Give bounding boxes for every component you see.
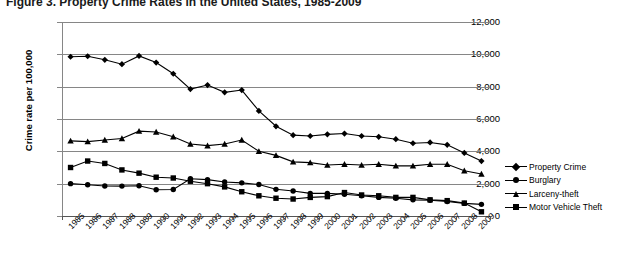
data-point-square-icon	[342, 190, 347, 195]
chart-plot-area: Crime rate per 100,000 02,0004,0006,0008…	[0, 0, 500, 257]
data-point-diamond-icon	[102, 57, 108, 63]
series-lines	[62, 22, 490, 216]
figure-container: Figure 3. Property Crime Rates in the Un…	[0, 0, 622, 257]
data-point-round-icon	[68, 181, 73, 186]
data-point-round-icon	[273, 187, 278, 192]
legend: Property CrimeBurglaryLarceny-theftMotor…	[505, 160, 622, 214]
data-point-round-icon	[85, 182, 90, 187]
data-point-diamond-icon	[290, 132, 296, 138]
data-point-diamond-icon	[153, 59, 159, 65]
data-point-square-icon	[359, 192, 364, 197]
x-tick-mark	[387, 216, 388, 220]
x-tick-mark	[456, 216, 457, 220]
data-point-diamond-icon	[427, 139, 433, 145]
x-tick-mark	[319, 216, 320, 220]
x-tick-mark	[439, 216, 440, 220]
series-larceny-theft	[67, 128, 484, 177]
data-point-round-icon	[256, 182, 261, 187]
data-point-diamond-icon	[478, 158, 484, 164]
data-point-diamond-icon	[324, 131, 330, 137]
x-tick-mark	[199, 216, 200, 220]
data-point-diamond-icon	[444, 142, 450, 148]
series-property-crime	[67, 53, 484, 164]
data-point-square-icon	[102, 161, 107, 166]
data-point-round-icon	[136, 183, 141, 188]
legend-item[interactable]: Property Crime	[505, 160, 622, 174]
triangle-icon	[505, 188, 527, 200]
data-point-diamond-icon	[136, 53, 142, 59]
data-point-round-icon	[239, 180, 244, 185]
data-point-square-icon	[119, 167, 124, 172]
diamond-icon	[505, 161, 527, 173]
x-tick-mark	[96, 216, 97, 220]
x-tick-mark	[233, 216, 234, 220]
data-point-square-icon	[85, 158, 90, 163]
data-point-round-icon	[153, 187, 158, 192]
legend-symbol	[512, 163, 520, 171]
x-tick-mark	[79, 216, 80, 220]
data-point-square-icon	[427, 197, 432, 202]
data-point-square-icon	[171, 175, 176, 180]
data-point-square-icon	[410, 195, 415, 200]
data-point-diamond-icon	[204, 82, 210, 88]
square-icon	[505, 201, 527, 213]
series-line	[71, 56, 482, 161]
data-point-triangle-icon	[256, 148, 262, 154]
legend-label: Property Crime	[527, 162, 586, 172]
data-point-square-icon	[222, 184, 227, 189]
data-point-square-icon	[239, 189, 244, 194]
legend-item[interactable]: Larceny-theft	[505, 187, 622, 201]
legend-symbol	[513, 204, 519, 210]
data-point-square-icon	[325, 194, 330, 199]
data-point-diamond-icon	[410, 140, 416, 146]
data-point-diamond-icon	[461, 150, 467, 156]
data-point-square-icon	[308, 195, 313, 200]
series-plot	[62, 22, 490, 216]
data-point-square-icon	[393, 195, 398, 200]
data-point-diamond-icon	[222, 89, 228, 95]
legend-symbol	[513, 177, 519, 183]
data-point-square-icon	[136, 170, 141, 175]
x-tick-mark	[370, 216, 371, 220]
legend-item[interactable]: Motor Vehicle Theft	[505, 201, 622, 215]
legend-symbol	[513, 191, 519, 197]
x-tick-mark	[336, 216, 337, 220]
x-tick-mark	[353, 216, 354, 220]
legend-item[interactable]: Burglary	[505, 174, 622, 188]
data-point-round-icon	[222, 179, 227, 184]
data-point-square-icon	[68, 165, 73, 170]
data-point-diamond-icon	[359, 133, 365, 139]
x-tick-mark	[285, 216, 286, 220]
x-tick-mark	[267, 216, 268, 220]
x-tick-mark	[148, 216, 149, 220]
x-tick-mark	[113, 216, 114, 220]
x-tick-mark	[473, 216, 474, 220]
data-point-triangle-icon	[239, 137, 245, 143]
data-point-diamond-icon	[119, 61, 125, 67]
x-tick-mark	[130, 216, 131, 220]
x-tick-mark	[182, 216, 183, 220]
x-tick-mark	[165, 216, 166, 220]
y-axis-title: Crime rate per 100,000	[23, 11, 34, 191]
x-tick-mark	[404, 216, 405, 220]
legend-label: Larceny-theft	[527, 189, 579, 199]
data-point-diamond-icon	[376, 134, 382, 140]
x-tick-mark	[422, 216, 423, 220]
data-point-round-icon	[171, 187, 176, 192]
data-point-square-icon	[256, 193, 261, 198]
x-tick-mark	[490, 216, 491, 220]
data-point-square-icon	[205, 181, 210, 186]
legend-label: Burglary	[527, 175, 561, 185]
x-tick-mark	[250, 216, 251, 220]
data-point-square-icon	[479, 209, 484, 214]
x-tick-mark	[62, 216, 63, 220]
data-point-diamond-icon	[67, 54, 73, 60]
data-point-square-icon	[273, 196, 278, 201]
data-point-square-icon	[153, 175, 158, 180]
data-point-diamond-icon	[307, 133, 313, 139]
data-point-square-icon	[445, 198, 450, 203]
data-point-square-icon	[376, 193, 381, 198]
data-point-round-icon	[290, 188, 295, 193]
data-point-round-icon	[102, 183, 107, 188]
data-point-triangle-icon	[461, 168, 467, 174]
